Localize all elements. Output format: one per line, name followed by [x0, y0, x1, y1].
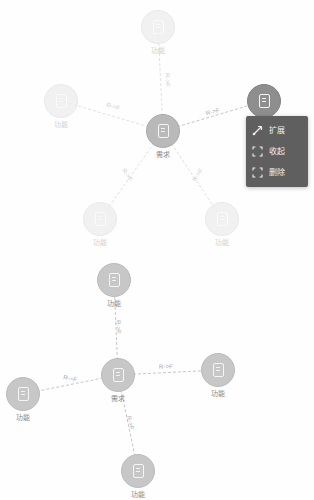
- document-icon: [153, 20, 164, 34]
- document-icon: [217, 212, 228, 226]
- graph-node[interactable]: 功能: [44, 84, 78, 118]
- graph-node-label: 功能: [93, 238, 107, 247]
- graph-node-label: 需求: [111, 394, 125, 403]
- graph-node-label: 需求: [156, 150, 170, 159]
- graph-node-label: 功能: [215, 238, 229, 247]
- edge-label: R->F: [163, 73, 171, 87]
- edge-label: R->F: [120, 167, 133, 182]
- relationship-graph-bottom[interactable]: 需求功能功能功能功能 R->FR->FR->FR->F: [0, 258, 314, 500]
- graph-node-label: 功能: [151, 46, 165, 55]
- edge-label: R->F: [191, 167, 204, 182]
- document-icon: [18, 387, 29, 401]
- edge-label: R->F: [159, 363, 173, 370]
- graph-node[interactable]: 需求: [146, 114, 180, 148]
- graph-node[interactable]: 功能: [141, 10, 175, 44]
- edge-label: R->F: [205, 107, 220, 117]
- graph-node[interactable]: 功能: [247, 84, 281, 118]
- document-icon: [95, 212, 106, 226]
- edge-layer-bottom: [0, 258, 314, 500]
- menu-item-delete[interactable]: 删除: [246, 162, 308, 183]
- document-icon: [56, 94, 67, 108]
- graph-node[interactable]: 需求: [101, 358, 135, 392]
- graph-node-label: 功能: [16, 413, 30, 422]
- edge-label: R->F: [114, 320, 122, 334]
- graph-node[interactable]: 功能: [97, 263, 131, 297]
- menu-item-delete-label: 删除: [269, 167, 286, 178]
- document-icon: [213, 363, 224, 377]
- menu-item-collapse-label: 收起: [269, 146, 286, 157]
- graph-node[interactable]: 功能: [121, 454, 155, 488]
- edge-label: R->F: [125, 415, 135, 430]
- document-icon: [113, 368, 124, 382]
- graph-node-label: 功能: [131, 490, 145, 499]
- graph-node-label: 功能: [211, 389, 225, 398]
- graph-node[interactable]: 功能: [83, 202, 117, 236]
- edge-label: R->F: [105, 102, 120, 113]
- graph-node[interactable]: 功能: [205, 202, 239, 236]
- menu-item-collapse[interactable]: 收起: [246, 141, 308, 162]
- document-icon: [109, 273, 120, 287]
- graph-canvas[interactable]: 需求功能功能功能功能功能 R->FR->FR->FR->FR->F 需求功能功能…: [0, 0, 314, 500]
- delete-corners-icon: [252, 167, 263, 178]
- collapse-corners-icon: [252, 146, 263, 157]
- document-icon: [259, 94, 270, 108]
- graph-node[interactable]: 功能: [6, 377, 40, 411]
- graph-node-label: 功能: [107, 299, 121, 308]
- graph-node[interactable]: 功能: [201, 353, 235, 387]
- expand-arrow-icon: [252, 125, 263, 136]
- document-icon: [133, 464, 144, 478]
- node-context-menu[interactable]: 扩展 收起 删除: [246, 116, 308, 187]
- document-icon: [158, 124, 169, 138]
- graph-node-label: 功能: [54, 120, 68, 129]
- edge-label: R->F: [62, 374, 77, 384]
- menu-item-expand[interactable]: 扩展: [246, 120, 308, 141]
- menu-item-expand-label: 扩展: [269, 125, 286, 136]
